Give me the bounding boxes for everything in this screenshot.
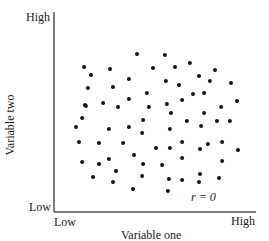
data-point <box>198 147 202 151</box>
data-point <box>107 127 111 131</box>
data-point <box>132 153 136 157</box>
data-point <box>108 67 112 71</box>
data-point <box>141 162 145 166</box>
data-point <box>107 157 111 161</box>
data-point <box>197 180 201 184</box>
data-point <box>229 81 233 85</box>
data-point <box>199 124 203 128</box>
data-point <box>217 176 221 180</box>
data-point <box>80 116 84 120</box>
x-axis-low-label: Low <box>54 216 76 228</box>
data-point <box>154 146 158 150</box>
data-point <box>164 79 168 83</box>
data-point <box>135 52 139 56</box>
data-point <box>97 162 101 166</box>
data-point <box>167 177 171 181</box>
data-point <box>191 92 195 96</box>
data-point <box>145 91 149 95</box>
data-point <box>111 85 115 89</box>
data-point <box>74 125 78 129</box>
data-point <box>180 140 184 144</box>
data-point <box>202 91 206 95</box>
data-point <box>185 119 189 123</box>
data-point <box>86 86 90 90</box>
data-point <box>127 97 131 101</box>
y-axis-title: Variable two <box>3 95 18 156</box>
data-point <box>168 127 172 131</box>
data-point <box>215 119 219 123</box>
data-point <box>198 172 202 176</box>
data-point <box>188 61 192 65</box>
data-point <box>151 66 155 70</box>
data-point <box>219 105 223 109</box>
data-point <box>160 163 164 167</box>
data-point <box>80 160 84 164</box>
data-point <box>140 131 144 135</box>
data-point <box>77 140 81 144</box>
data-point <box>140 174 144 178</box>
data-points <box>74 52 240 193</box>
data-point <box>101 101 105 105</box>
data-point <box>235 99 239 103</box>
data-point <box>197 74 201 78</box>
data-point <box>220 159 224 163</box>
data-point <box>206 142 210 146</box>
data-point <box>236 148 240 152</box>
y-axis-low-label: Low <box>29 201 51 213</box>
data-point <box>127 77 131 81</box>
data-point <box>168 146 172 150</box>
data-point <box>166 189 170 193</box>
data-point <box>127 125 131 129</box>
data-point <box>213 68 217 72</box>
data-point <box>141 118 145 122</box>
y-axis-high-label: High <box>26 11 50 23</box>
data-point <box>220 140 224 144</box>
data-point <box>163 53 167 57</box>
data-point <box>173 65 177 69</box>
x-axis-high-label: High <box>231 215 255 227</box>
data-point <box>169 111 173 115</box>
data-point <box>97 141 101 145</box>
data-point <box>84 104 88 108</box>
data-point <box>147 105 151 109</box>
x-axis-title: Variable one <box>121 229 181 241</box>
data-point <box>228 119 232 123</box>
data-point <box>165 102 169 106</box>
correlation-annotation: r = 0 <box>191 191 216 203</box>
data-point <box>121 141 125 145</box>
data-point <box>180 156 184 160</box>
data-point <box>89 73 93 77</box>
data-point <box>177 83 181 87</box>
data-point <box>111 180 115 184</box>
data-point <box>131 187 135 191</box>
data-point <box>114 169 118 173</box>
data-point <box>202 111 206 115</box>
data-point <box>180 98 184 102</box>
data-point <box>180 178 184 182</box>
data-point <box>91 175 95 179</box>
data-point <box>208 79 212 83</box>
data-point <box>82 65 86 69</box>
data-point <box>116 105 120 109</box>
